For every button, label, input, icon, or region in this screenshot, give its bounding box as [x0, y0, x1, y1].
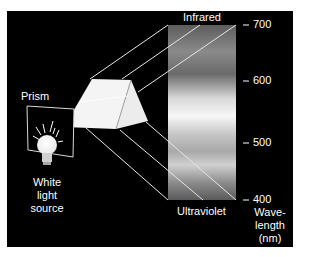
- tick-label-600: 600: [253, 74, 271, 87]
- axis-title-line2: length: [248, 219, 292, 232]
- spectrum-bar: [168, 25, 236, 200]
- light-source-label-line2: light: [26, 189, 68, 202]
- axis-title-line3: (nm): [248, 232, 292, 245]
- light-source-label-line3: source: [26, 202, 68, 215]
- light-source-label: White light source: [26, 176, 68, 215]
- prism: [64, 79, 148, 129]
- prism-label: Prism: [21, 90, 49, 103]
- light-source-box: [27, 106, 74, 165]
- ultraviolet-label: Ultraviolet: [177, 205, 226, 218]
- tick-label-400: 400: [253, 193, 271, 206]
- tick-label-700: 700: [253, 18, 271, 31]
- axis-title-line1: Wave-: [248, 206, 292, 219]
- axis-title: Wave- length (nm): [248, 206, 292, 245]
- tick-label-500: 500: [253, 136, 271, 149]
- axis-ticks: [243, 25, 249, 200]
- infrared-label: Infrared: [183, 11, 221, 24]
- light-source-label-line1: White: [26, 176, 68, 189]
